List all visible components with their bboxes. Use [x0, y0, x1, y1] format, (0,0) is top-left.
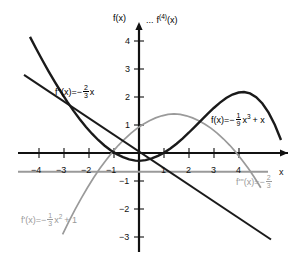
y-axis-title-dots: ... — [146, 15, 154, 25]
annotation-f: f(x)=−19x3+ x — [211, 112, 265, 128]
annotation-f-lead: f(x)=− — [211, 115, 235, 125]
annotation-f3: f'''(x)=−23 — [236, 174, 273, 190]
y-axis-arrow — [135, 22, 142, 30]
annotation-f2-lead: f''(x)=− — [55, 87, 82, 97]
x-tick-label-3: 3 — [211, 165, 216, 175]
annotation-f2: f''(x)=−23x — [55, 84, 94, 100]
y-axis-title-arg: (x) — [167, 15, 178, 25]
annotation-f2-var: x — [90, 87, 95, 97]
x-tick-label--4: −4 — [31, 165, 41, 175]
x-tick-label-2: 2 — [186, 165, 191, 175]
x-tick-label--1: −1 — [106, 165, 116, 175]
annotation-f3-fraction: 23 — [266, 174, 272, 190]
annotation-f1-exponent: 2 — [59, 213, 63, 220]
y-axis-title-superscript: (4) — [159, 13, 167, 20]
annotation-f2-fraction: 23 — [83, 84, 89, 100]
y-tick-label-4: 4 — [125, 36, 130, 46]
y-axis-title-fx: f(x) — [113, 13, 126, 23]
y-axis-title: f(x) — [113, 14, 126, 23]
y-tick-label-3: 3 — [125, 64, 130, 74]
chart-figure: f(x) ...f(4)(x) x −4 −3 −2 −1 1 2 3 4 4 … — [0, 0, 301, 266]
x-tick-label--2: −2 — [81, 165, 91, 175]
y-tick-label--1: −1 — [119, 176, 129, 186]
annotation-f1-tail: + 1 — [64, 215, 77, 225]
x-tick-label-1: 1 — [161, 165, 166, 175]
y-axis-title-rest: ...f(4)(x) — [146, 14, 177, 25]
y-tick-label--2: −2 — [119, 204, 129, 214]
annotation-f1: f'(x)=−13x2+ 1 — [21, 212, 77, 228]
y-tick-label--3: −3 — [119, 232, 129, 242]
x-axis-arrow — [280, 149, 288, 156]
annotation-f1-lead: f'(x)=− — [21, 215, 46, 225]
annotation-f1-fraction: 13 — [47, 212, 53, 228]
x-axis-label: x — [279, 167, 284, 177]
annotation-f-fraction: 19 — [236, 112, 242, 128]
y-tick-label-1: 1 — [125, 120, 130, 130]
annotation-f-tail: + x — [253, 115, 265, 125]
y-tick-label-2: 2 — [125, 92, 130, 102]
annotation-f3-lead: f'''(x)=− — [236, 177, 265, 187]
annotation-f-exponent: 3 — [247, 113, 251, 120]
x-tick-label--3: −3 — [56, 165, 66, 175]
